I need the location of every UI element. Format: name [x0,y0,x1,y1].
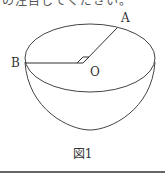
label-A: A [120,11,130,25]
figure-caption: 図1 [0,144,165,161]
label-O: O [90,65,100,79]
divider [0,171,165,173]
label-B: B [11,56,20,70]
rim-ellipse [25,24,155,92]
right-angle-marker [77,57,89,63]
